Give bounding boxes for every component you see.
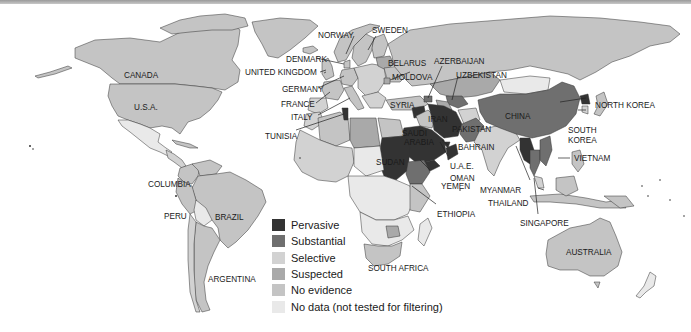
borneo — [556, 176, 578, 196]
label-pakistan: PAKISTAN — [452, 125, 491, 134]
label-korea: KOREA — [568, 136, 597, 145]
label-china: CHINA — [505, 112, 531, 121]
legend-item-pervasive: Pervasive — [272, 217, 443, 233]
label-south: SOUTH — [568, 126, 597, 135]
label-moldova: MOLDOVA — [392, 73, 433, 82]
eastern-europe — [354, 64, 386, 96]
label-argentina: ARGENTINA — [208, 275, 256, 284]
label-italy: ITALY — [291, 113, 313, 122]
legend-label: Pervasive — [291, 219, 339, 231]
label-uzbekistan: UZBEKISTAN — [456, 71, 507, 80]
country-vietnam[interactable] — [540, 136, 552, 166]
legend-swatch-substantial — [272, 235, 285, 247]
label-myanmar: MYANMAR — [480, 186, 521, 195]
label-syria: SYRIA — [390, 101, 415, 110]
label-sweden: SWEDEN — [372, 26, 408, 35]
legend: Pervasive Substantial Selective Suspecte… — [272, 217, 443, 315]
label-sudan: SUDAN — [376, 158, 405, 167]
east-africa — [410, 184, 430, 212]
caribbean-islands — [172, 140, 198, 148]
country-libya[interactable] — [350, 118, 380, 148]
label-australia: AUSTRALIA — [566, 248, 612, 257]
aleutian-islands — [35, 66, 72, 78]
country-egypt[interactable] — [378, 118, 404, 138]
country-denmark[interactable] — [344, 60, 350, 68]
legend-label: No data (not tested for filtering) — [291, 301, 443, 313]
country-thailand[interactable] — [530, 150, 540, 176]
label-canada: CANADA — [124, 71, 159, 80]
legend-swatch-no-evidence — [272, 284, 285, 296]
label-arabia: ARABIA — [404, 138, 435, 147]
country-moldova[interactable] — [384, 78, 390, 84]
label-thailand: THAILAND — [488, 199, 529, 208]
label-iran: IRAN — [428, 115, 448, 124]
label-north-korea: NORTH KOREA — [595, 101, 655, 110]
label-azerbaijan: AZERBAIJAN — [434, 57, 485, 66]
legend-item-substantial: Substantial — [272, 233, 443, 249]
label-ethiopia: ETHIOPIA — [437, 210, 476, 219]
legend-label: Selective — [291, 252, 336, 264]
central-africa — [348, 176, 414, 220]
label-united-kingdom: UNITED KINGDOM — [245, 68, 317, 77]
legend-label: No evidence — [291, 284, 352, 296]
label-denmark: DENMARK — [286, 55, 327, 64]
central-america — [166, 150, 186, 168]
label-brazil: BRAZIL — [215, 213, 244, 222]
tasmania — [594, 282, 600, 288]
legend-swatch-suspected — [272, 268, 285, 280]
country-finland[interactable] — [372, 34, 388, 58]
label-france: FRANCE — [281, 100, 315, 109]
iceland — [303, 46, 318, 54]
legend-swatch-selective — [272, 252, 285, 264]
country-azerbaijan[interactable] — [424, 96, 432, 102]
label-vietnam: VIETNAM — [574, 154, 611, 163]
legend-item-suspected: Suspected — [272, 266, 443, 282]
label-uae: U.A.E. — [450, 162, 474, 171]
legend-swatch-no-data — [272, 301, 285, 313]
country-new-zealand[interactable] — [636, 272, 656, 298]
legend-label: Suspected — [291, 268, 343, 280]
country-argentina[interactable] — [194, 222, 220, 312]
legend-item-selective: Selective — [272, 250, 443, 266]
label-saudi: SAUDI — [402, 129, 427, 138]
label-norway: NORWAY — [318, 31, 354, 40]
country-france[interactable] — [322, 80, 344, 100]
label-usa: U.S.A. — [134, 103, 158, 112]
legend-item-no-evidence: No evidence — [272, 282, 443, 298]
label-columbia: COLUMBIA — [148, 180, 191, 189]
label-yemen: YEMEN — [441, 182, 470, 191]
label-germany: GERMANY — [282, 85, 324, 94]
label-tunisia: TUNISIA — [265, 132, 298, 141]
legend-swatch-pervasive — [272, 219, 285, 231]
label-belarus: BELARUS — [388, 59, 427, 68]
label-bahrain: BAHRAIN — [458, 143, 494, 152]
label-peru: PERU — [164, 212, 187, 221]
legend-label: Substantial — [291, 235, 345, 247]
label-singapore: SINGAPORE — [520, 219, 569, 228]
legend-item-no-data: No data (not tested for filtering) — [272, 298, 443, 314]
country-malaysia[interactable] — [534, 176, 544, 188]
